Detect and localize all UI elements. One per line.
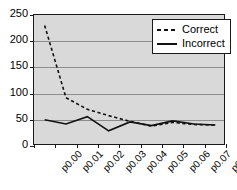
dashed-line-swatch-icon: [157, 29, 177, 31]
line-chart: 050100150200250 p0.00p0.01p0.02p0.03p0.0…: [0, 0, 237, 190]
x-tick-label: p0.04: [144, 149, 169, 174]
x-tick-label: p0.00: [59, 149, 84, 174]
legend-label-incorrect: Incorrect: [182, 38, 225, 49]
x-tick-label: p0.03: [123, 149, 148, 174]
legend-item-incorrect: Incorrect: [157, 37, 225, 50]
x-tick-label: p0.06: [187, 149, 212, 174]
chart-legend: Correct Incorrect: [152, 19, 231, 54]
legend-item-correct: Correct: [157, 23, 225, 36]
x-tick-label: p0.08: [230, 149, 237, 174]
solid-line-swatch-icon: [157, 43, 177, 45]
legend-label-correct: Correct: [182, 24, 218, 35]
x-tick-label: p0.05: [166, 149, 191, 174]
x-tick-label: p0.01: [80, 149, 105, 174]
x-tick-label: p0.02: [102, 149, 127, 174]
x-tick-label: p0.07: [208, 149, 233, 174]
